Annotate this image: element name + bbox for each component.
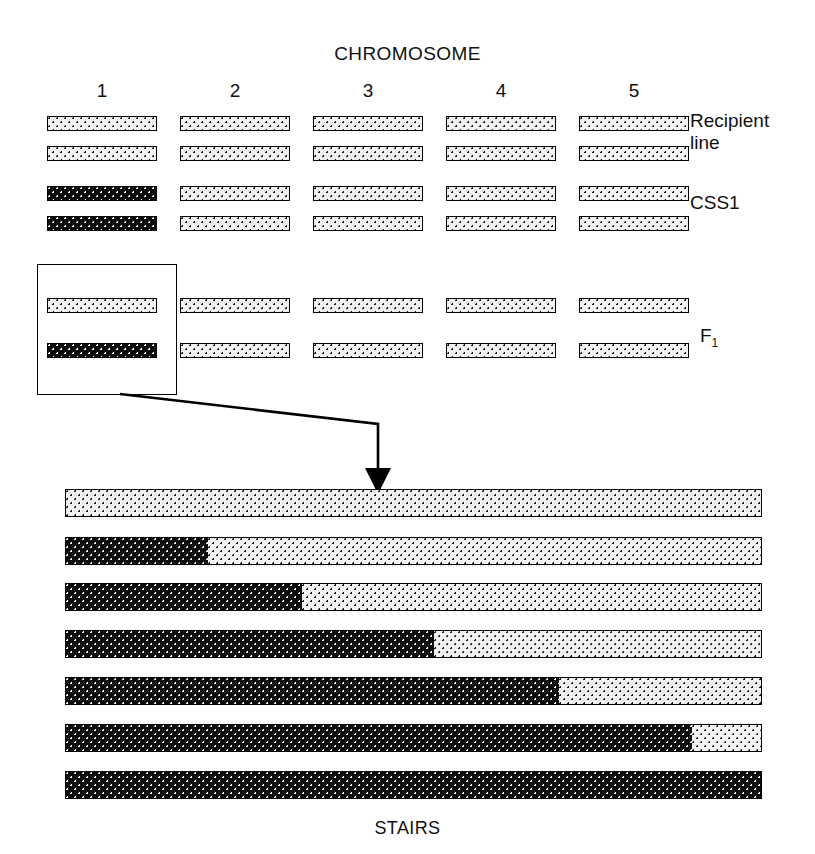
- recipient-segment: [692, 725, 762, 751]
- recipient-segment: [208, 538, 761, 564]
- donor-segment: [66, 725, 692, 751]
- stairs-bar-1: [65, 489, 762, 517]
- donor-segment: [66, 538, 208, 564]
- donor-segment: [66, 678, 559, 704]
- stairs-bar-3: [65, 583, 762, 611]
- stairs-bar-5: [65, 677, 762, 705]
- figure-canvas: CHROMOSOME 12345 Recipient line CSS1 F1 …: [0, 0, 815, 854]
- stairs-bar-2: [65, 537, 762, 565]
- stairs-bar-4: [65, 630, 762, 658]
- recipient-segment: [559, 678, 761, 704]
- donor-segment: [66, 631, 434, 657]
- recipient-segment: [302, 584, 761, 610]
- donor-segment: [66, 584, 302, 610]
- callout-arrow-path: [120, 394, 378, 470]
- donor-segment: [66, 772, 761, 798]
- stairs-bar-7: [65, 771, 762, 799]
- stairs-label: STAIRS: [0, 818, 815, 839]
- stairs-bar-6: [65, 724, 762, 752]
- recipient-segment: [434, 631, 761, 657]
- recipient-segment: [66, 490, 761, 516]
